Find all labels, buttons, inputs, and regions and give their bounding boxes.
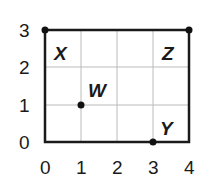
x-tick-2: 2 [112, 157, 123, 178]
y-tick-2: 2 [19, 57, 30, 78]
point-z [186, 27, 193, 34]
x-tick-4: 4 [184, 157, 195, 178]
label-y: Y [160, 118, 175, 139]
label-z: Z [161, 43, 175, 64]
x-tick-0: 0 [40, 157, 51, 178]
label-x: X [53, 43, 68, 64]
label-w: W [88, 80, 108, 101]
coordinate-grid-diagram: X Z W Y 3 2 1 0 0 1 2 3 4 [0, 0, 203, 182]
point-y [150, 139, 157, 146]
point-x [42, 27, 49, 34]
y-tick-3: 3 [19, 20, 30, 41]
point-w [78, 102, 85, 109]
y-tick-0: 0 [19, 132, 30, 153]
x-tick-3: 3 [148, 157, 159, 178]
y-tick-1: 1 [19, 95, 30, 116]
x-tick-1: 1 [76, 157, 87, 178]
